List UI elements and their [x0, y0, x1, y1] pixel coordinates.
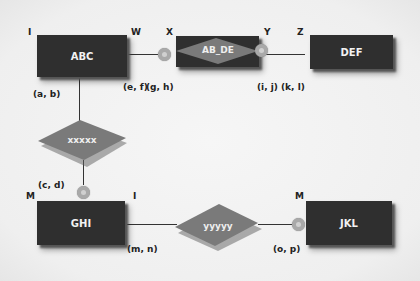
corner-label: Z — [297, 27, 304, 37]
coord-label: (i, j) — [257, 82, 278, 92]
coord-label: (e, f) — [123, 82, 148, 92]
coord-label: (g, h) — [146, 82, 174, 92]
coord-label: (c, d) — [38, 180, 65, 190]
connector-node-op[interactable] — [292, 218, 305, 231]
corner-label: Y — [264, 27, 271, 37]
connector-node-y[interactable] — [255, 44, 268, 57]
relationship-yyyyy-label: yyyyy — [196, 221, 240, 231]
connector-node-x[interactable] — [158, 48, 171, 61]
coord-label: (m, n) — [127, 244, 158, 254]
corner-label: W — [131, 27, 141, 37]
coord-label: (o, p) — [273, 244, 300, 254]
connector-node-cd[interactable] — [77, 186, 90, 199]
coord-label: (a, b) — [33, 89, 60, 99]
relationship-ab-de-label: AB_DE — [196, 45, 240, 55]
corner-label: I — [133, 191, 136, 201]
corner-label: I — [28, 27, 31, 37]
corner-label: M — [295, 191, 304, 201]
corner-label: X — [166, 27, 173, 37]
coord-label: (k, l) — [281, 82, 305, 92]
relationship-xxxxx-label: xxxxx — [60, 135, 104, 145]
corner-label: M — [26, 191, 35, 201]
